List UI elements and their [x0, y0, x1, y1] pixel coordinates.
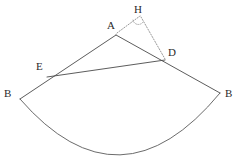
radius-right-line: [116, 35, 220, 93]
segment-hd-dotted: [141, 17, 165, 59]
angle-arc-at-h: [133, 20, 143, 24]
sector-arc: [20, 93, 220, 155]
chord-ed-line: [47, 60, 165, 77]
geometry-figure: A H D E B B: [0, 0, 238, 164]
figure-canvas: [0, 0, 238, 164]
radius-left-line: [20, 35, 116, 99]
vertex-label-a: A: [107, 20, 115, 31]
vertex-label-h: H: [134, 4, 142, 15]
vertex-label-b-left: B: [4, 88, 11, 99]
vertex-label-b-right: B: [225, 88, 232, 99]
vertex-label-e: E: [36, 61, 43, 72]
vertex-label-d: D: [168, 47, 176, 58]
